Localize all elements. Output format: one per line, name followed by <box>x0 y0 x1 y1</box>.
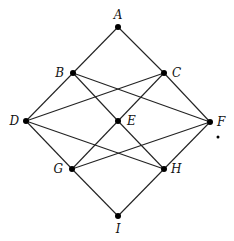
edge-c-e <box>118 73 164 121</box>
node-label-b: B <box>54 66 64 80</box>
node-d <box>23 118 29 124</box>
node-label-e: E <box>126 114 136 128</box>
node-e <box>115 118 121 124</box>
edge-a-b <box>73 27 118 73</box>
node-label-d: D <box>8 114 19 128</box>
node-h <box>161 166 167 172</box>
node-a <box>115 24 121 30</box>
edge-e-g <box>72 121 118 169</box>
edge-c-f <box>164 73 210 122</box>
node-f <box>207 119 213 125</box>
node-label-f: F <box>216 115 226 129</box>
edge-d-g <box>26 121 72 169</box>
stray-dot <box>217 136 220 139</box>
edge-b-d <box>26 73 73 121</box>
lattice-diagram: ABCDEFGHI <box>0 0 234 241</box>
node-label-a: A <box>113 8 123 22</box>
node-label-i: I <box>115 222 121 236</box>
node-c <box>161 70 167 76</box>
node-label-g: G <box>53 162 63 176</box>
node-i <box>115 213 121 219</box>
edge-f-g <box>72 122 210 169</box>
edge-a-c <box>118 27 164 73</box>
node-b <box>70 70 76 76</box>
stray-marks <box>217 136 220 139</box>
diagram-canvas: ABCDEFGHI <box>0 0 234 241</box>
edge-h-i <box>118 169 164 216</box>
edge-g-i <box>72 169 118 216</box>
node-g <box>69 166 75 172</box>
nodes <box>23 24 213 219</box>
edge-c-d <box>26 73 164 121</box>
node-label-c: C <box>172 66 181 80</box>
node-label-h: H <box>170 162 182 176</box>
